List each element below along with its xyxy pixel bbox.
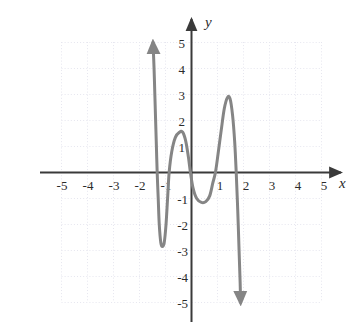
x-tick-label: 2 bbox=[243, 178, 250, 193]
x-tick-label: 5 bbox=[321, 178, 328, 193]
y-tick-label: 2 bbox=[179, 114, 186, 129]
y-tick-label: -5 bbox=[177, 296, 188, 311]
x-tick-label: 3 bbox=[269, 178, 276, 193]
y-tick-label: -1 bbox=[177, 192, 188, 207]
y-tick-label: -3 bbox=[177, 244, 188, 259]
y-tick-label: 1 bbox=[179, 140, 186, 155]
x-tick-label: -3 bbox=[109, 178, 120, 193]
coordinate-plane: y x -5 -4 -3 -2 -1 1 2 3 4 5 5 4 3 2 1 -… bbox=[0, 0, 347, 327]
y-tick-label: -4 bbox=[177, 270, 188, 285]
y-tick-label: -2 bbox=[177, 218, 188, 233]
y-tick-label: 5 bbox=[179, 36, 186, 51]
x-axis-label: x bbox=[338, 175, 346, 191]
graph-screenshot: y x -5 -4 -3 -2 -1 1 2 3 4 5 5 4 3 2 1 -… bbox=[0, 0, 347, 327]
x-tick-label: -5 bbox=[57, 178, 68, 193]
x-tick-label: -2 bbox=[135, 178, 146, 193]
y-axis-label: y bbox=[203, 14, 212, 30]
x-tick-label: 4 bbox=[295, 178, 302, 193]
x-tick-label: -4 bbox=[83, 178, 94, 193]
x-tick-label: 1 bbox=[217, 178, 224, 193]
y-tick-label: 4 bbox=[179, 62, 186, 77]
y-tick-label: 3 bbox=[179, 88, 186, 103]
